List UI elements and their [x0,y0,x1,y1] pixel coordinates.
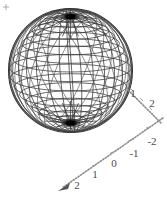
north-pole-core [66,14,76,19]
tick-label-depth-2: 2 [74,179,80,191]
pole-spokes [35,10,107,131]
depth-axis-line [62,118,163,188]
tick-label-depth-0: 0 [111,157,117,169]
tick-label-vertical-2: 2 [149,97,155,109]
sphere-plot-figure: 1 2 -2 -1 0 1 2 [0,0,167,197]
tick-label-depth-1: 1 [92,168,98,180]
scan-artifact-mark [3,4,9,10]
tick-label-depth-minus-2: -2 [147,135,156,147]
tick-label-vertical-1: 1 [130,87,136,99]
tick-label-depth-minus-1: -1 [129,147,138,159]
south-pole-core [66,120,76,125]
wireframe-sphere [0,0,150,151]
figure-canvas: 1 2 -2 -1 0 1 2 [0,0,167,197]
